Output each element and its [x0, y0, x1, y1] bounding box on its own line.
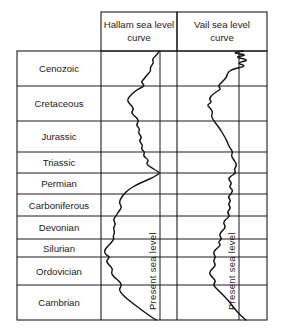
era-label-devonian: Devonian	[39, 222, 80, 233]
header-row: Hallam sea levelcurveVail sea levelcurve	[101, 12, 267, 51]
era-label-silurian: Silurian	[43, 243, 75, 254]
panel-hallam: Present sea level	[105, 51, 160, 320]
chart-canvas: Hallam sea levelcurveVail sea levelcurve…	[0, 0, 282, 331]
era-label-ordovician: Ordovician	[36, 266, 82, 277]
era-label-cenozoic: Cenozoic	[39, 63, 79, 74]
era-label-cretaceous: Cretaceous	[34, 98, 83, 109]
header-hallam-line1: Hallam sea level	[104, 19, 174, 30]
era-label-permian: Permian	[41, 178, 77, 189]
header-vail-line1: Vail sea level	[194, 19, 250, 30]
era-label-cambrian: Cambrian	[38, 297, 80, 308]
header-vail-line2: curve	[210, 32, 233, 43]
sea-level-curves-figure: Hallam sea levelcurveVail sea levelcurve…	[0, 0, 282, 331]
panel-vail: Present sea level	[208, 51, 246, 320]
vail-present-sea-level-label: Present sea level	[226, 232, 237, 310]
hallam-present-sea-level-label: Present sea level	[147, 232, 158, 310]
era-label-jurassic: Jurassic	[41, 131, 76, 142]
era-label-triassic: Triassic	[43, 157, 76, 168]
era-label-carboniferous: Carboniferous	[29, 200, 89, 211]
header-hallam-line2: curve	[127, 32, 150, 43]
